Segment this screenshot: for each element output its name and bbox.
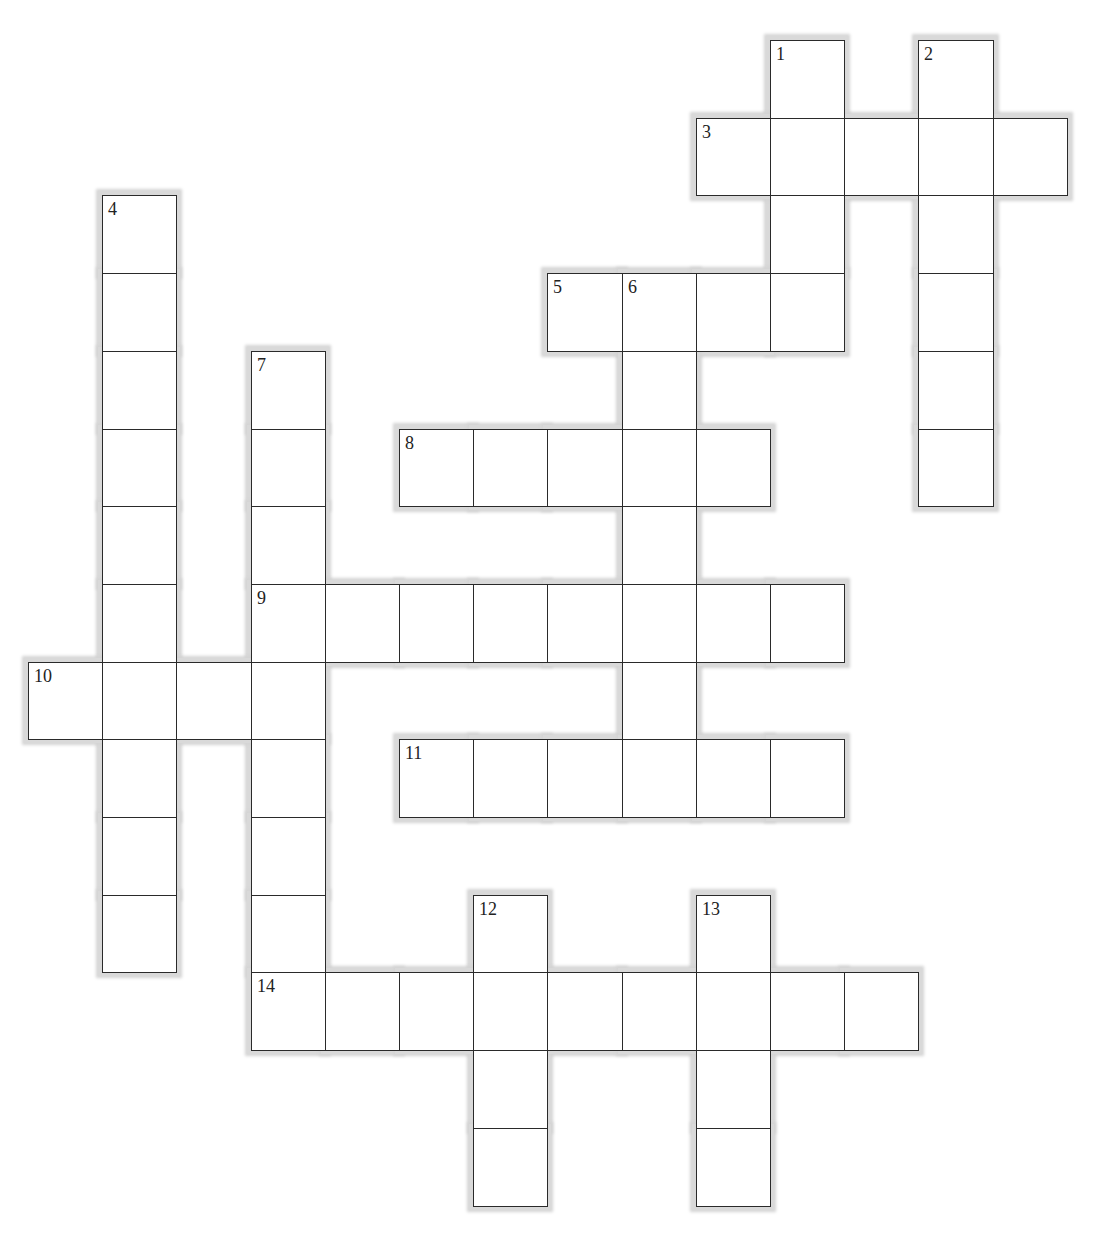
crossword-cell[interactable] (473, 1128, 548, 1207)
clue-number: 6 (628, 277, 637, 297)
crossword-cell[interactable] (547, 972, 623, 1051)
crossword-cell[interactable]: 7 (251, 351, 326, 430)
crossword-cell[interactable] (696, 972, 771, 1051)
crossword-cell[interactable] (696, 1128, 771, 1207)
crossword-cell[interactable] (251, 662, 326, 740)
crossword-cell[interactable] (473, 739, 548, 818)
crossword-cell[interactable] (102, 817, 177, 896)
crossword-cell[interactable] (696, 584, 771, 663)
clue-number: 7 (257, 355, 266, 375)
crossword-cell[interactable] (399, 584, 474, 663)
crossword-cell[interactable]: 4 (102, 195, 177, 274)
crossword-cell[interactable] (102, 584, 177, 663)
clue-number: 8 (405, 433, 414, 453)
crossword-cell[interactable] (547, 739, 623, 818)
clue-number: 9 (257, 588, 266, 608)
crossword-cell[interactable] (547, 584, 623, 663)
clue-number: 4 (108, 199, 117, 219)
crossword-cell[interactable] (696, 739, 771, 818)
crossword-cell[interactable] (696, 1050, 771, 1129)
crossword-cell[interactable] (918, 195, 994, 274)
crossword-cell[interactable] (622, 429, 697, 507)
crossword-cell[interactable] (918, 429, 994, 507)
clue-number: 10 (34, 666, 52, 686)
crossword-cell[interactable] (102, 739, 177, 818)
crossword-cell[interactable] (325, 972, 400, 1051)
crossword-cell[interactable] (622, 351, 697, 430)
crossword-cell[interactable] (102, 895, 177, 973)
crossword-cell[interactable] (251, 506, 326, 585)
crossword-cell[interactable] (102, 662, 177, 740)
clue-number: 14 (257, 976, 275, 996)
crossword-cell[interactable] (399, 972, 474, 1051)
crossword-cell[interactable] (547, 429, 623, 507)
crossword-cell[interactable] (176, 662, 252, 740)
crossword-cell[interactable] (325, 584, 400, 663)
crossword-cell[interactable] (102, 351, 177, 430)
crossword-cell[interactable] (473, 584, 548, 663)
crossword-cell[interactable] (251, 739, 326, 818)
crossword-cell[interactable]: 10 (28, 662, 103, 740)
crossword-cell[interactable]: 3 (696, 118, 771, 196)
crossword-cell[interactable] (473, 429, 548, 507)
crossword-cell[interactable] (473, 1050, 548, 1129)
clue-number: 5 (553, 277, 562, 297)
crossword-cell[interactable]: 14 (251, 972, 326, 1051)
crossword-cell[interactable] (993, 118, 1068, 196)
crossword-cell[interactable]: 5 (547, 273, 623, 352)
crossword-cell[interactable]: 6 (622, 273, 697, 352)
crossword-cell[interactable] (770, 273, 845, 352)
crossword-cell[interactable]: 1 (770, 40, 845, 119)
clue-number: 12 (479, 899, 497, 919)
clue-number: 1 (776, 44, 785, 64)
crossword-cell[interactable] (696, 429, 771, 507)
crossword-cell[interactable] (251, 895, 326, 973)
crossword-cell[interactable]: 13 (696, 895, 771, 973)
crossword-cell[interactable]: 2 (918, 40, 994, 119)
clue-number: 11 (405, 743, 422, 763)
crossword-cell[interactable] (102, 506, 177, 585)
crossword-cell[interactable] (918, 351, 994, 430)
crossword-cell[interactable] (102, 429, 177, 507)
crossword-cell[interactable] (770, 972, 845, 1051)
crossword-cell[interactable] (622, 662, 697, 740)
crossword-cell[interactable] (770, 195, 845, 274)
crossword-cell[interactable] (622, 972, 697, 1051)
clue-number: 3 (702, 122, 711, 142)
crossword-cell[interactable]: 12 (473, 895, 548, 973)
crossword-cell[interactable] (251, 817, 326, 896)
crossword-cell[interactable]: 11 (399, 739, 474, 818)
crossword-cell[interactable] (918, 118, 994, 196)
crossword-cell[interactable] (770, 584, 845, 663)
crossword-cell[interactable] (473, 972, 548, 1051)
crossword-cell[interactable] (844, 118, 919, 196)
crossword-cell[interactable] (696, 273, 771, 352)
crossword-cell[interactable] (622, 506, 697, 585)
crossword-cell[interactable] (770, 739, 845, 818)
crossword-cell[interactable] (251, 429, 326, 507)
crossword-cell[interactable] (102, 273, 177, 352)
crossword-cell[interactable] (844, 972, 919, 1051)
clue-number: 2 (924, 44, 933, 64)
clue-number: 13 (702, 899, 720, 919)
crossword-cell[interactable] (622, 584, 697, 663)
crossword-cell[interactable]: 8 (399, 429, 474, 507)
crossword-grid: 1234567914810111213 (0, 0, 1098, 1244)
crossword-cell[interactable] (622, 739, 697, 818)
crossword-cell[interactable]: 9 (251, 584, 326, 663)
crossword-cell[interactable] (770, 118, 845, 196)
crossword-cell[interactable] (918, 273, 994, 352)
